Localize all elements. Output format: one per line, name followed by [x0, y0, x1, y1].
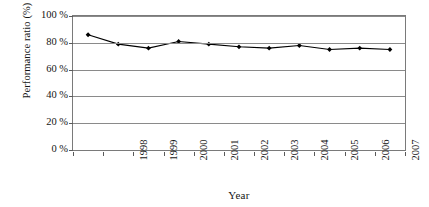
gridline-60: [73, 70, 405, 71]
y-tick-mark-40: [69, 96, 73, 97]
y-tick-label-100: 100 %: [34, 10, 68, 21]
y-tick-label-20: 20 %: [34, 117, 68, 128]
y-tick-mark-20: [69, 123, 73, 124]
gridline-100: [73, 16, 405, 17]
data-point-1998: [86, 32, 91, 37]
y-axis-title: Performance ratio (%): [21, 0, 32, 121]
data-point-2007: [357, 46, 362, 51]
y-tick-label-40: 40 %: [34, 90, 68, 101]
gridline-40: [73, 96, 405, 97]
y-tick-mark-100: [69, 16, 73, 17]
x-axis-title: Year: [72, 189, 406, 201]
y-tick-mark-80: [69, 43, 73, 44]
data-point-2000: [146, 46, 151, 51]
y-tick-label-80: 80 %: [34, 37, 68, 48]
data-point-2008: [388, 47, 393, 52]
y-tick-label-60: 60 %: [34, 64, 68, 75]
data-series-performance-ratio: [73, 16, 405, 150]
gridline-20: [73, 123, 405, 124]
y-axis-tick-labels: 0 %20 %40 %60 %80 %100 %: [34, 0, 68, 207]
plot-area: [72, 15, 406, 151]
gridline-80: [73, 43, 405, 44]
y-tick-mark-60: [69, 70, 73, 71]
data-point-2005: [297, 43, 302, 48]
line-chart: Performance ratio (%) 0 %20 %40 %60 %80 …: [0, 0, 429, 207]
y-tick-label-0: 0 %: [34, 144, 68, 155]
data-point-2006: [327, 47, 332, 52]
data-point-2003: [237, 44, 242, 49]
data-point-2004: [267, 46, 272, 51]
